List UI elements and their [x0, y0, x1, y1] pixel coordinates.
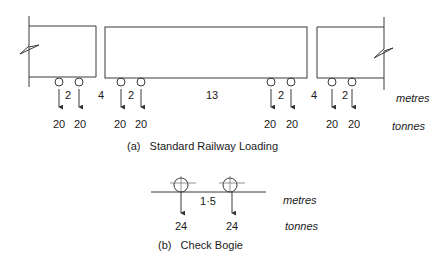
load-label: 20: [286, 118, 298, 130]
load-labels: 20 20 20 20 20 20 20 20 tonnes: [53, 118, 426, 132]
wheels: [55, 78, 356, 86]
bogie-unit-tonnes-label: tonnes: [285, 220, 319, 232]
load-label: 20: [326, 118, 338, 130]
spacing-label: 13: [206, 89, 218, 101]
check-bogie: 1·5 metres 24 24 tonnes (b) Check Bogie: [151, 176, 319, 251]
standard-railway-loading: 2 4 2 13 2 4 2 metres 20 20 20 20 20 20 …: [20, 16, 430, 152]
railway-loading-diagram: 2 4 2 13 2 4 2 metres 20 20 20 20 20 20 …: [0, 0, 444, 264]
load-label: 20: [264, 118, 276, 130]
caption-a: (a) Standard Railway Loading: [127, 140, 278, 152]
unit-tonnes-label: tonnes: [392, 120, 426, 132]
spacing-label: 2: [65, 89, 71, 101]
spacing-label: 2: [278, 89, 284, 101]
load-label: 20: [348, 118, 360, 130]
bogie-spacing-label: 1·5: [200, 195, 216, 207]
spacing-label: 4: [98, 89, 104, 101]
spacing-label: 4: [311, 89, 317, 101]
unit-metres-label: metres: [396, 92, 430, 104]
load-label: 20: [135, 118, 147, 130]
load-label: 20: [74, 118, 86, 130]
spacing-label: 2: [342, 89, 348, 101]
middle-wagon: [105, 27, 307, 78]
caption-b: (b) Check Bogie: [158, 239, 243, 251]
bogie-unit-metres-label: metres: [283, 194, 317, 206]
load-label: 20: [114, 118, 126, 130]
spacing-label: 2: [128, 89, 134, 101]
load-label: 20: [53, 118, 65, 130]
left-wagon: [20, 16, 96, 87]
bogie-load-label: 24: [226, 220, 238, 232]
bogie-wheels: [170, 176, 245, 192]
bogie-load-label: 24: [175, 220, 187, 232]
spacing-labels: 2 4 2 13 2 4 2 metres: [65, 89, 430, 104]
